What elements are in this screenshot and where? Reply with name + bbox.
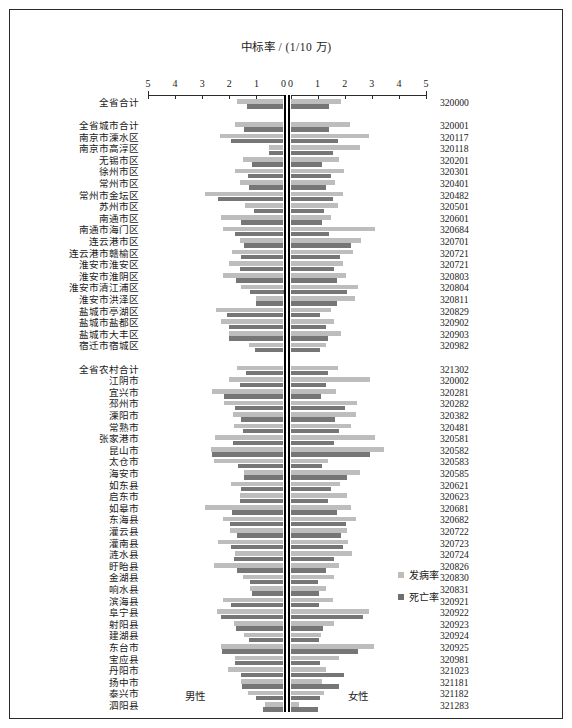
bar-male-mortality <box>221 615 283 620</box>
row-code: 320982 <box>440 341 469 351</box>
bar-male-mortality <box>252 162 284 167</box>
axis-tick-label-left-3: 3 <box>200 78 205 89</box>
bar-male-mortality <box>241 220 283 225</box>
row-label: 泰兴市 <box>109 689 139 699</box>
bar-female-incidence <box>291 528 348 533</box>
bar-female-incidence <box>291 99 342 104</box>
row-code: 320981 <box>440 655 469 665</box>
row-code: 320501 <box>440 202 469 212</box>
bar-male-mortality <box>234 557 283 562</box>
bar-male-mortality <box>218 197 284 202</box>
row-label: 盐城市亭湖区 <box>79 307 139 317</box>
bar-male-incidence <box>214 459 284 464</box>
bar-female-mortality <box>291 348 321 353</box>
bar-male-mortality <box>240 499 283 504</box>
row-code: 320924 <box>440 631 469 641</box>
bar-female-mortality <box>291 336 328 341</box>
row-code: 320921 <box>440 597 469 607</box>
bar-male-mortality <box>241 417 283 422</box>
row-label: 全省农村合计 <box>79 365 139 375</box>
bar-female-mortality <box>291 673 345 678</box>
bar-male-incidence <box>229 261 284 266</box>
row-code: 320001 <box>440 121 469 131</box>
bar-male-mortality <box>222 649 284 654</box>
bar-female-incidence <box>291 575 334 580</box>
bar-male-incidence <box>256 296 284 301</box>
row-label: 海安市 <box>109 469 139 479</box>
row-code: 321182 <box>440 689 468 699</box>
bar-female-incidence <box>291 134 370 139</box>
row-label: 全省合计 <box>99 98 139 108</box>
bar-male-mortality <box>231 545 284 550</box>
bar-female-mortality <box>291 696 320 701</box>
bar-female-mortality <box>291 127 329 132</box>
bar-female-mortality <box>291 475 348 480</box>
bar-female-mortality <box>291 325 327 330</box>
bar-female-mortality <box>291 684 340 689</box>
row-label: 全省城市合计 <box>79 121 139 131</box>
row-label: 淮安市淮安区 <box>79 260 139 270</box>
bar-male-mortality <box>254 209 283 214</box>
bar-male-mortality <box>230 522 284 527</box>
bar-female-incidence <box>291 203 338 208</box>
bar-female-mortality <box>291 417 336 422</box>
bar-female-mortality <box>291 394 321 399</box>
row-label: 南通市海门区 <box>79 225 139 235</box>
bar-female-incidence <box>291 169 345 174</box>
bar-male-incidence <box>205 505 284 510</box>
row-label: 灌云县 <box>109 527 139 537</box>
bar-male-mortality <box>237 568 284 573</box>
bar-male-incidence <box>269 145 283 150</box>
bar-female-incidence <box>291 319 334 324</box>
bar-male-incidence <box>228 667 284 672</box>
bar-male-incidence <box>234 424 283 429</box>
axis-tick-label-left-1: 1 <box>254 78 259 89</box>
row-label: 溧阳市 <box>109 411 139 421</box>
bar-female-incidence <box>291 366 338 371</box>
bar-male-mortality <box>263 707 283 712</box>
bar-male-mortality <box>224 394 283 399</box>
row-label: 滨海县 <box>109 597 139 607</box>
bar-male-mortality <box>241 255 284 260</box>
legend-item-1: 死亡率 <box>398 589 439 604</box>
bar-male-incidence <box>218 540 284 545</box>
row-code: 320482 <box>440 191 469 201</box>
axis-tick-label-left-0: 0 <box>281 78 286 89</box>
bar-female-mortality <box>291 545 344 550</box>
center-spine-right <box>288 95 290 712</box>
bar-female-mortality <box>291 522 347 527</box>
bar-female-mortality <box>291 452 370 457</box>
bar-female-incidence <box>291 157 339 162</box>
chart-page: 中标率 / (1/10 万) 543210012345全省合计320000全省城… <box>0 0 572 728</box>
bar-male-mortality <box>236 626 283 631</box>
bar-male-mortality <box>229 336 283 341</box>
row-code: 320682 <box>440 515 469 525</box>
bar-female-mortality <box>291 580 319 585</box>
row-label: 涟水县 <box>109 550 139 560</box>
bar-female-incidence <box>291 459 329 464</box>
bar-male-incidence <box>212 389 283 394</box>
bar-female-mortality <box>291 255 340 260</box>
row-code: 320681 <box>440 504 469 514</box>
row-label: 东海县 <box>109 515 139 525</box>
row-code: 320481 <box>440 423 469 433</box>
bar-male-mortality <box>240 267 283 272</box>
row-label: 东台市 <box>109 643 139 653</box>
row-code: 320684 <box>440 225 469 235</box>
bar-female-mortality <box>291 406 346 411</box>
bar-female-incidence <box>291 238 361 243</box>
bar-male-incidence <box>235 551 284 556</box>
bar-female-mortality <box>291 162 323 167</box>
axis-line-right <box>291 95 427 96</box>
bar-male-incidence <box>211 447 284 452</box>
bar-male-mortality <box>232 510 283 515</box>
bar-female-incidence <box>291 540 348 545</box>
row-label: 常熟市 <box>109 423 139 433</box>
bar-female-mortality <box>291 301 338 306</box>
bar-male-mortality <box>244 243 283 248</box>
bar-male-incidence <box>240 180 283 185</box>
row-label: 盐城市大丰区 <box>79 330 139 340</box>
row-code: 320401 <box>440 179 469 189</box>
row-label: 如皋市 <box>109 504 139 514</box>
cap-right-outer <box>426 91 427 96</box>
